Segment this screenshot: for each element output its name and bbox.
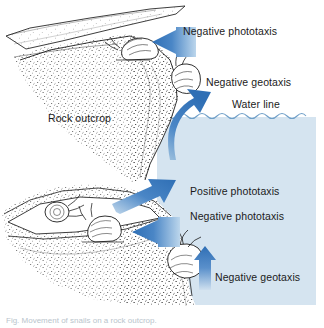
taxis-diagram-figure: Negative phototaxis Negative geotaxis Wa…: [0, 0, 324, 328]
label-negative-geotaxis-top: Negative geotaxis: [206, 77, 291, 88]
label-positive-phototaxis: Positive phototaxis: [190, 186, 279, 197]
label-negative-geotaxis-bottom: Negative geotaxis: [215, 272, 300, 283]
snail-upper-rock-face: [172, 52, 201, 94]
label-water-line: Water line: [232, 99, 280, 110]
label-negative-phototaxis-top: Negative phototaxis: [183, 26, 277, 37]
label-rock-outcrop: Rock outcrop: [48, 113, 111, 124]
figure-caption: Fig. Movement of snails on a rock outcro…: [6, 316, 318, 325]
label-negative-phototaxis-bottom: Negative phototaxis: [190, 211, 284, 222]
